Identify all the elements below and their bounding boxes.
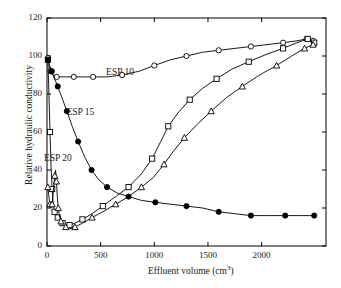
- chart-canvas: [0, 0, 341, 288]
- annotation-esp-10: ESP 10: [106, 67, 134, 77]
- x-tick-label: 0: [38, 250, 56, 260]
- x-tick-label: 1000: [145, 250, 163, 260]
- y-tick-label: 80: [24, 88, 42, 98]
- axes-frame: [47, 18, 326, 246]
- annotation-esp-15: ESP 15: [66, 107, 94, 117]
- y-tick-label: 40: [24, 164, 42, 174]
- y-tick-label: 20: [24, 202, 42, 212]
- data-series-group: [45, 36, 317, 229]
- x-axis-label: Effluent volume (cm3): [148, 264, 234, 276]
- y-tick-label: 120: [24, 12, 42, 22]
- x-tick-label: 500: [92, 250, 110, 260]
- x-tick-label: 1500: [199, 250, 217, 260]
- x-axis-label-base: Effluent volume (cm: [148, 266, 227, 276]
- y-tick-label: 100: [24, 50, 42, 60]
- y-tick-label: 60: [24, 126, 42, 136]
- axis-ticks: [47, 18, 326, 246]
- chart-figure: Relative hydraulic conductivity Effluent…: [0, 0, 341, 288]
- x-axis-label-tail: ): [230, 266, 233, 276]
- annotation-esp-20: ESP 20: [44, 153, 72, 163]
- x-tick-label: 2000: [253, 250, 271, 260]
- y-tick-label: 0: [24, 240, 42, 250]
